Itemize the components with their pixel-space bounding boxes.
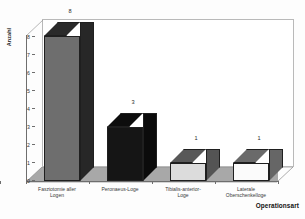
chart-canvas: 0 1 2 3 4 5 6 7 8 Anzahl Operationsart 8… bbox=[0, 0, 305, 219]
y-tick-8: 8 bbox=[19, 35, 30, 40]
x-axis-title: Operationsart bbox=[256, 202, 299, 209]
x-category-label-1-line2: Logen bbox=[24, 192, 90, 198]
bar-front-face-1 bbox=[44, 36, 80, 181]
x-tick-1b bbox=[89, 181, 90, 184]
bar-value-label-3: 1 bbox=[184, 135, 208, 141]
x-category-label-3: Tibialis-anterior- Loge bbox=[150, 186, 216, 198]
y-axis-title: Anzahl bbox=[6, 17, 12, 57]
bar-value-label-1: 8 bbox=[58, 8, 82, 14]
bar-value-label-2: 3 bbox=[121, 99, 145, 105]
bar-front-face-3 bbox=[170, 163, 206, 181]
x-category-label-2-line1: Peronaeus-Loge bbox=[87, 186, 153, 192]
x-category-label-3-line2: Loge bbox=[150, 192, 216, 198]
x-tick-0 bbox=[26, 181, 27, 184]
y-tick-3: 3 bbox=[19, 125, 30, 130]
bar-front-face-4 bbox=[233, 163, 269, 181]
bar-side-face-1 bbox=[80, 22, 94, 181]
bar-value-label-4: 1 bbox=[247, 135, 271, 141]
y-tick-6: 6 bbox=[19, 71, 30, 76]
bar-fasziotomie-aller-logen[interactable] bbox=[44, 36, 80, 181]
x-tick-2 bbox=[152, 181, 153, 184]
x-tick-4 bbox=[278, 181, 279, 184]
x-category-label-4-line2: Oberschenkelloge bbox=[213, 192, 279, 198]
y-tick-5: 5 bbox=[19, 89, 30, 94]
bar-laterale-oberschenkelloge[interactable] bbox=[233, 163, 269, 181]
x-category-label-4: Laterale Oberschenkelloge bbox=[213, 186, 279, 198]
y-tick-1: 1 bbox=[19, 161, 30, 166]
y-tick-4: 4 bbox=[19, 107, 30, 112]
bar-peronaeus-loge[interactable] bbox=[107, 127, 143, 181]
y-tick-0: 0 bbox=[19, 179, 30, 184]
x-tick-1 bbox=[0, 181, 1, 184]
x-tick-3 bbox=[215, 181, 216, 184]
bar-front-face-2 bbox=[107, 127, 143, 181]
y-tick-2: 2 bbox=[19, 143, 30, 148]
x-category-label-1: Fasziotomie aller Logen bbox=[24, 186, 90, 198]
x-category-label-2: Peronaeus-Loge bbox=[87, 186, 153, 192]
bar-tibialis-anterior-loge[interactable] bbox=[170, 163, 206, 181]
y-tick-7: 7 bbox=[19, 53, 30, 58]
